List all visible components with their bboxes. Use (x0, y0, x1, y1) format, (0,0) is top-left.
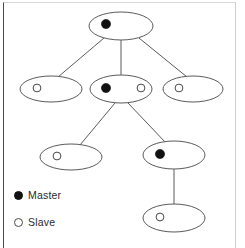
edge-group (58, 38, 187, 204)
node-row4-bottom-ellipse (143, 204, 205, 232)
edge-middle-to-lower-left (80, 103, 115, 145)
node-row3-right[interactable] (143, 141, 205, 169)
diagram-screenshot: Master Slave (0, 0, 245, 248)
node-row2-left[interactable] (20, 76, 82, 102)
slave-marker-icon (175, 84, 183, 92)
legend-item-label: Slave (28, 217, 55, 228)
edge-root-to-right (139, 38, 187, 77)
legend-item-label: Master (28, 190, 61, 201)
node-row2-left-ellipse (20, 76, 82, 102)
node-row2-right-ellipse (163, 76, 223, 102)
edge-middle-to-lower-right (128, 103, 166, 143)
node-root-ellipse (89, 12, 153, 40)
slave-marker-icon (137, 84, 145, 92)
node-root[interactable] (89, 12, 153, 40)
node-row2-right[interactable] (163, 76, 223, 102)
legend-item-slave: Slave (14, 217, 55, 228)
node-row4-bottom[interactable] (143, 204, 205, 232)
node-row2-middle[interactable] (90, 75, 152, 103)
slave-marker-icon (33, 84, 41, 92)
node-row3-left[interactable] (40, 144, 102, 170)
master-marker-icon (101, 19, 110, 28)
master-marker-icon (155, 149, 164, 158)
node-row3-right-ellipse (143, 141, 205, 169)
hollow-circle-icon (14, 218, 23, 227)
node-row3-left-ellipse (40, 144, 102, 170)
filled-circle-icon (14, 191, 23, 200)
tree-diagram-canvas (0, 0, 245, 248)
master-marker-icon (101, 83, 110, 92)
edge-root-to-left (58, 38, 104, 77)
slave-marker-icon (53, 152, 61, 160)
legend-item-master: Master (14, 190, 61, 201)
slave-marker-icon (156, 213, 164, 221)
